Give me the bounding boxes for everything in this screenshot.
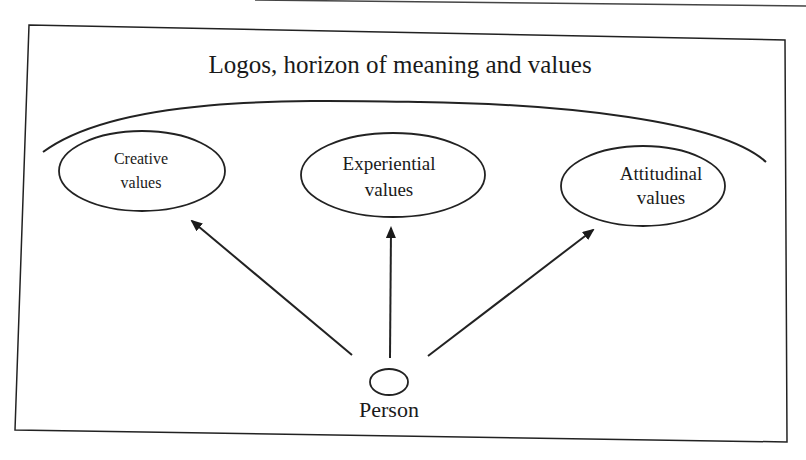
person-circle [370, 369, 408, 395]
node-attitudinal-values: Attitudinal values [561, 146, 725, 226]
page-edge-line [255, 0, 806, 6]
attitudinal-values-ellipse [561, 146, 725, 226]
node-person: Person [359, 369, 419, 422]
arrow-person-to-experiential [390, 228, 391, 358]
experiential-values-ellipse [301, 133, 485, 217]
arrow-person-to-attitudinal [428, 230, 593, 356]
creative-values-label-line1: Creative [114, 150, 168, 167]
person-label: Person [359, 397, 419, 422]
attitudinal-values-label-line1: Attitudinal [620, 163, 702, 184]
creative-values-label-line2: values [121, 174, 162, 191]
attitudinal-values-label-line2: values [637, 187, 686, 208]
experiential-values-label-line2: values [365, 179, 414, 200]
experiential-values-label-line1: Experiential [343, 153, 436, 174]
arrow-person-to-creative [192, 221, 352, 355]
creative-values-ellipse [59, 131, 225, 211]
node-creative-values: Creative values [59, 131, 225, 211]
diagram-title: Logos, horizon of meaning and values [208, 51, 591, 78]
node-experiential-values: Experiential values [301, 133, 485, 217]
diagram-frame [15, 25, 787, 442]
diagram-canvas: Logos, horizon of meaning and values Cre… [0, 0, 806, 460]
